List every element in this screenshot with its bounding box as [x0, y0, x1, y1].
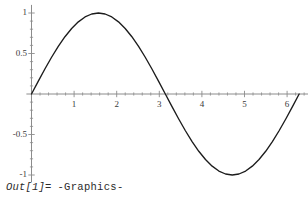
- x-tick-label-4: 4: [200, 100, 205, 109]
- mathematica-output-cell: 123456-1-0.50.51 Out[1]= -Graphics-: [0, 0, 308, 199]
- output-line: Out[1]= -Graphics-: [6, 181, 124, 193]
- y-tick-label-4: 1: [23, 8, 28, 17]
- output-value: -Graphics-: [58, 181, 124, 193]
- x-tick-label-3: 3: [157, 100, 162, 109]
- y-tick-label-1: -0.5: [13, 130, 27, 139]
- sine-plot: [0, 0, 308, 182]
- x-tick-label-2: 2: [114, 100, 119, 109]
- output-prompt-label: Out[1]=: [6, 181, 52, 193]
- y-tick-label-0: -1: [20, 170, 28, 179]
- y-tick-label-3: 0.5: [16, 49, 27, 58]
- x-tick-label-6: 6: [285, 100, 290, 109]
- x-tick-label-1: 1: [72, 100, 77, 109]
- x-tick-label-5: 5: [242, 100, 247, 109]
